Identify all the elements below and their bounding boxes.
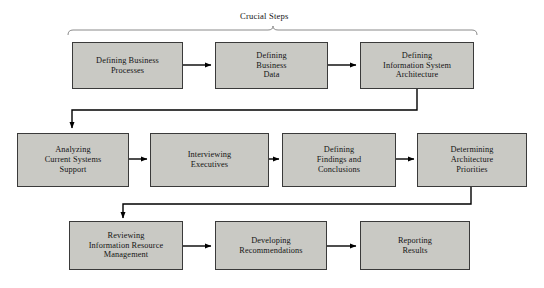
node-label: Defining Business Processes (96, 56, 159, 76)
crucial-steps-brace (68, 26, 477, 35)
node-developing-recommendations[interactable]: Developing Recommendations (215, 221, 327, 270)
flowchart-diagram: Crucial Steps Defining Business Processe… (0, 0, 544, 288)
node-label: Defining Findings and Conclusions (317, 145, 361, 174)
node-defining-business-processes[interactable]: Defining Business Processes (72, 42, 183, 89)
node-label: Reporting Results (398, 236, 432, 256)
node-label: Interviewing Executives (188, 150, 232, 170)
node-label: Analyzing Current Systems Support (45, 145, 102, 174)
connector-row2-to-row3 (123, 187, 471, 218)
node-interviewing-executives[interactable]: Interviewing Executives (150, 133, 269, 187)
node-label: Reviewing Information Resource Managemen… (89, 231, 164, 260)
node-defining-information-system-architecture[interactable]: Defining Information System Architecture (360, 42, 474, 89)
node-label: Determining Architecture Priorities (450, 145, 493, 174)
node-analyzing-current-systems-support[interactable]: Analyzing Current Systems Support (17, 133, 129, 187)
node-reporting-results[interactable]: Reporting Results (360, 221, 470, 270)
crucial-steps-label: Crucial Steps (240, 11, 289, 21)
node-reviewing-information-resource-management[interactable]: Reviewing Information Resource Managemen… (69, 221, 183, 270)
node-defining-business-data[interactable]: Defining Business Data (215, 42, 328, 89)
node-label: Defining Information System Architecture (383, 51, 451, 80)
node-label: Developing Recommendations (239, 236, 302, 256)
node-determining-architecture-priorities[interactable]: Determining Architecture Priorities (417, 133, 527, 187)
node-defining-findings-and-conclusions[interactable]: Defining Findings and Conclusions (282, 133, 396, 187)
connector-row1-to-row2 (72, 89, 417, 128)
node-label: Defining Business Data (256, 51, 286, 80)
